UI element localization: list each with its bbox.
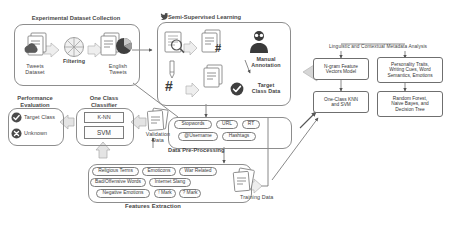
- training-data-icon: [232, 168, 258, 194]
- validation-data-label: Validation Data: [136, 131, 180, 143]
- tag-hashtags: Hashtags: [222, 132, 256, 141]
- model-svm: SVM: [84, 126, 124, 139]
- document-cloud-icon: [22, 32, 52, 58]
- document-stack-icon: [202, 64, 228, 90]
- svg-text:#: #: [215, 42, 221, 54]
- outcome-unknown-label: Unknown: [24, 130, 62, 136]
- tag-url: URL: [216, 120, 238, 129]
- tweets-dataset-label: Tweets Dataset: [16, 63, 54, 75]
- dataset-collection-title: Experimental Dataset Collection: [14, 15, 138, 22]
- english-tweets-label: English Tweets: [100, 63, 136, 75]
- one-class-knn-svm-box: One-Class KNN and SVM: [313, 91, 369, 113]
- tag-question-mark: ? Mark: [179, 189, 201, 198]
- ngram-feature-box: N-gram Feature Vectors Model: [313, 58, 369, 80]
- pen-hashtag-icon: #: [163, 60, 187, 92]
- diagram-canvas: Experimental Dataset Collection Tweets D…: [0, 0, 450, 229]
- filtering-label: Filtering: [58, 58, 90, 64]
- document-magnifier-icon: [163, 31, 187, 55]
- manual-annotation-label: Manual Annotation: [243, 56, 289, 68]
- tag-negative-emotions: Negative Emotions: [96, 189, 150, 198]
- svg-text:#: #: [165, 78, 173, 94]
- document-piechart-icon: [100, 32, 134, 60]
- twitter-bird-icon: [160, 13, 169, 22]
- tag-war-related: War Related: [179, 167, 217, 176]
- tag-internet-slang: Internet Slang: [149, 178, 191, 187]
- semi-supervised-title: Semi-Supervised Learning: [168, 14, 283, 21]
- validation-data-icon: [146, 108, 170, 132]
- tag-religious-terms: Religious Terms: [92, 167, 139, 176]
- person-icon: [248, 30, 270, 54]
- personality-traits-box: Personality Traits, Writing Cues, Word S…: [377, 57, 443, 83]
- tag-rt: RT: [242, 120, 260, 129]
- performance-evaluation-title: Performance Evaluation: [6, 95, 64, 108]
- training-data-label: Training Data: [240, 194, 284, 200]
- document-hashtag-icon: #: [200, 29, 226, 55]
- random-forest-box: Random Forest, Naive Bayes, and Decision…: [377, 91, 443, 117]
- one-class-classifier-title: One Class Classifier: [76, 95, 132, 108]
- check-circle-icon: [11, 112, 22, 123]
- tag-stopwords: Stopwords: [174, 120, 212, 129]
- funnel-wheel-icon: [60, 36, 88, 60]
- tag-bad-offensive-words: Bad/Offensive Words: [90, 178, 146, 187]
- tag-emoticons: Emoticons: [142, 167, 176, 176]
- tag-exclamation-mark: ! Mark: [154, 189, 176, 198]
- cross-circle-icon: [11, 128, 22, 139]
- outcome-target-class-label: Target Class: [24, 114, 62, 120]
- check-circle-icon: [230, 82, 244, 96]
- target-class-data-label: Target Class Data: [244, 82, 288, 94]
- model-knn: K-NN: [84, 112, 124, 123]
- preprocessing-title: Data Pre-Processing: [168, 147, 246, 153]
- tag-username: @Username: [178, 132, 218, 141]
- features-extraction-title: Features Extraction: [113, 203, 193, 209]
- metadata-analysis-title: Linguistic and Contextual Metadata Analy…: [311, 44, 445, 50]
